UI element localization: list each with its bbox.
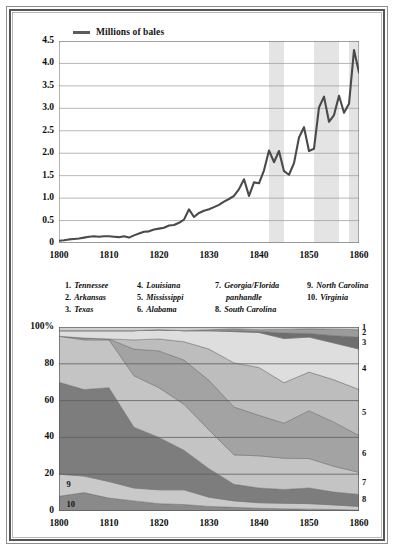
key-column: 7.Georgia/Floridapanhandle8.South Caroli… xyxy=(215,281,307,316)
line-chart-x-tick: 1820 xyxy=(150,250,169,260)
area-chart-plot-area xyxy=(59,327,359,511)
area-chart-x-tick: 1860 xyxy=(350,518,369,528)
key-item-number: 10. xyxy=(307,293,317,304)
legend-label: Millions of bales xyxy=(96,27,164,37)
key-item-name: Alabama xyxy=(146,305,176,316)
key-item-name: South Carolina xyxy=(224,305,276,316)
area-band-label-10: 10 xyxy=(67,499,76,509)
legend-line-swatch xyxy=(73,31,90,34)
line-chart-y-tick: 0.5 xyxy=(13,215,54,225)
line-chart-x-tick: 1830 xyxy=(200,250,219,260)
key-column: 4.Louisiana5.Mississippi6.Alabama xyxy=(137,281,215,316)
line-chart-y-tick: 2.0 xyxy=(13,147,54,157)
key-item-name: Virginia xyxy=(320,293,348,304)
key-item-number: 1. xyxy=(65,281,71,292)
key-item: 6.Alabama xyxy=(137,305,215,316)
line-chart-y-tick: 1.0 xyxy=(13,192,54,202)
line-chart-y-tick: 0 xyxy=(13,237,54,247)
line-chart-y-tick: 3.0 xyxy=(13,102,54,112)
area-band-label-5: 5 xyxy=(362,407,366,417)
key-item-number: 4. xyxy=(137,281,143,292)
key-item-number: 2. xyxy=(65,293,71,304)
key-item: 2.Arkansas xyxy=(65,293,137,304)
area-chart-y-tick: 40 xyxy=(13,431,54,441)
area-band-label-8: 8 xyxy=(362,494,366,504)
key-item-name: Georgia/Florida xyxy=(224,281,279,292)
line-chart-x-tick: 1840 xyxy=(250,250,269,260)
key-item: 7.Georgia/Florida xyxy=(215,281,307,292)
key-item-name: North Carolina xyxy=(316,281,368,292)
line-chart-y-tick: 4.0 xyxy=(13,57,54,67)
area-chart-x-tick: 1850 xyxy=(300,518,319,528)
figure-frame-inner: Millions of bales 00.51.01.52.02.53.03.5… xyxy=(12,12,382,538)
key-item-number: 5. xyxy=(137,293,143,304)
key-item-number: 9. xyxy=(307,281,313,292)
key-item-name: Texas xyxy=(74,305,93,316)
area-band-label-9: 9 xyxy=(67,479,71,489)
area-chart-svg xyxy=(59,327,359,511)
line-chart-y-tick: 3.5 xyxy=(13,80,54,90)
line-chart-y-tick: 1.5 xyxy=(13,170,54,180)
line-chart-y-tick: 4.5 xyxy=(13,35,54,45)
key-item: 5.Mississippi xyxy=(137,293,215,304)
key-item-number: 3. xyxy=(65,305,71,316)
line-chart-x-tick: 1860 xyxy=(350,250,369,260)
area-chart-y-tick: 100% xyxy=(13,321,54,331)
figure-frame-middle: Millions of bales 00.51.01.52.02.53.03.5… xyxy=(9,9,385,541)
line-chart-y-tick: 2.5 xyxy=(13,125,54,135)
key-item-number: 7. xyxy=(215,281,221,292)
key-column: 9.North Carolina10.Virginia xyxy=(307,281,375,316)
key-item: 3.Texas xyxy=(65,305,137,316)
area-band-label-3: 3 xyxy=(362,337,366,347)
area-chart-x-tick: 1800 xyxy=(50,518,69,528)
key-item: panhandle xyxy=(215,293,307,304)
area-chart-x-tick: 1810 xyxy=(100,518,119,528)
key-item: 1.Tennessee xyxy=(65,281,137,292)
key-item-name: Mississippi xyxy=(146,293,183,304)
line-chart-legend: Millions of bales xyxy=(73,27,164,37)
line-chart-svg xyxy=(59,41,359,243)
area-chart-y-tick: 20 xyxy=(13,468,54,478)
area-chart-x-tick: 1830 xyxy=(200,518,219,528)
line-chart-x-tick: 1850 xyxy=(300,250,319,260)
key-item: 9.North Carolina xyxy=(307,281,375,292)
key-item-name: Tennessee xyxy=(74,281,108,292)
area-chart-x-tick: 1820 xyxy=(150,518,169,528)
key-item-name: Louisiana xyxy=(146,281,180,292)
key-item-number: 6. xyxy=(137,305,143,316)
key-item-number: 8. xyxy=(215,305,221,316)
key-column: 1.Tennessee2.Arkansas3.Texas xyxy=(65,281,137,316)
line-chart: Millions of bales 00.51.01.52.02.53.03.5… xyxy=(13,13,387,271)
stacked-area-chart: 020406080100% 18001810182018301840185018… xyxy=(13,319,387,545)
area-chart-y-tick: 0 xyxy=(13,505,54,515)
area-band-label-4: 4 xyxy=(362,363,366,373)
key-item-name-continued: panhandle xyxy=(215,293,262,304)
figure-frame: Millions of bales 00.51.01.52.02.53.03.5… xyxy=(6,6,388,544)
area-band-label-7: 7 xyxy=(362,477,366,487)
area-chart-y-tick: 80 xyxy=(13,358,54,368)
state-key-legend: 1.Tennessee2.Arkansas3.Texas4.Louisiana5… xyxy=(65,281,375,316)
key-item: 8.South Carolina xyxy=(215,305,307,316)
line-chart-x-tick: 1800 xyxy=(50,250,69,260)
line-chart-x-tick: 1810 xyxy=(100,250,119,260)
key-item-name: Arkansas xyxy=(74,293,106,304)
key-item: 10.Virginia xyxy=(307,293,375,304)
key-item: 4.Louisiana xyxy=(137,281,215,292)
area-band-label-2: 2 xyxy=(362,327,366,337)
area-band-label-6: 6 xyxy=(362,448,366,458)
area-chart-x-tick: 1840 xyxy=(250,518,269,528)
area-chart-y-tick: 60 xyxy=(13,395,54,405)
line-chart-plot-area xyxy=(59,41,359,243)
